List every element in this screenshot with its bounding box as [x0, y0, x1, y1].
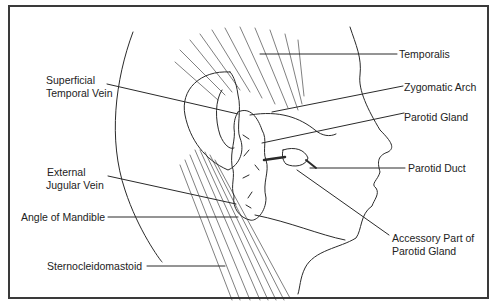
ear-inner	[216, 90, 234, 148]
parotid-gland-shape	[232, 110, 268, 220]
label-superficial-temporal-vein-line1: Superficial	[46, 74, 95, 86]
ear-outline	[184, 72, 242, 170]
leader-parotid-gland	[262, 113, 404, 143]
leader-zygomatic-arch	[272, 86, 403, 112]
sternocleidomastoid-fibers	[180, 150, 290, 300]
parotid-texture	[243, 135, 259, 208]
label-zygomatic-arch: Zygomatic Arch	[404, 81, 476, 93]
label-parotid-gland: Parotid Gland	[404, 111, 468, 123]
duct-opening	[306, 160, 316, 168]
label-superficial-temporal-vein-line2: Temporal Vein	[46, 87, 113, 99]
accessory-parotid-shape	[282, 148, 308, 166]
temporalis-fibers	[175, 27, 304, 110]
back-of-head-outline	[115, 32, 162, 262]
label-sternocleidomastoid: Sternocleidomastoid	[47, 260, 142, 272]
leader-external-jugular-vein	[108, 176, 236, 204]
label-accessory-part-line1: Accessory Part of	[392, 232, 474, 244]
label-accessory-part-line2: Parotid Gland	[392, 245, 456, 257]
label-external-jugular-vein-line2: Jugular Vein	[46, 179, 104, 191]
label-parotid-duct: Parotid Duct	[408, 162, 466, 174]
label-angle-of-mandible: Angle of Mandible	[21, 211, 105, 223]
label-temporalis: Temporalis	[399, 48, 450, 60]
mandible-edge	[255, 215, 345, 240]
face-profile-outline	[298, 27, 392, 294]
leader-accessory-parotid	[297, 170, 389, 235]
label-external-jugular-vein-line1: External	[47, 166, 86, 178]
parotid-duct-shape	[264, 157, 285, 160]
